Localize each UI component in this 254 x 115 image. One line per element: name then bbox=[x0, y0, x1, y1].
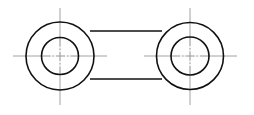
left-boss bbox=[13, 8, 107, 105]
connecting-edges bbox=[90, 31, 162, 79]
link-drawing bbox=[0, 0, 254, 115]
right-boss bbox=[144, 8, 237, 105]
